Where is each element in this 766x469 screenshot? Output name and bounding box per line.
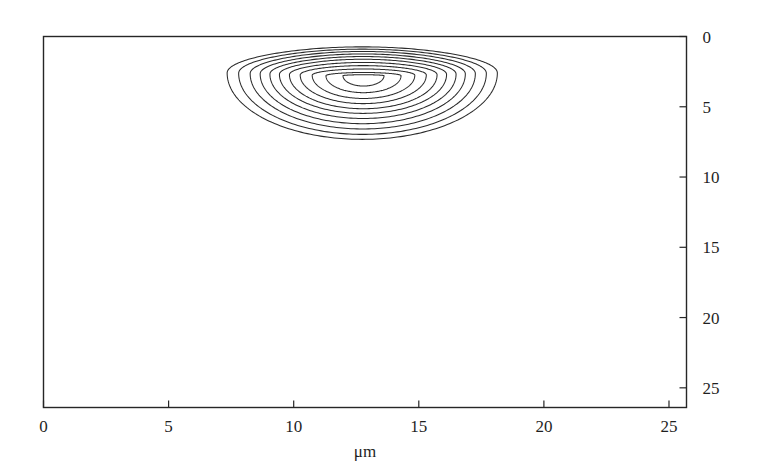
x-tick-label-5: 25 <box>660 418 677 435</box>
x-axis-title: μm <box>354 443 376 460</box>
x-tick-label-3: 15 <box>410 418 427 435</box>
y-tick-label-5: 25 <box>703 379 720 396</box>
x-tick-label-4: 20 <box>535 418 552 435</box>
x-tick-label-1: 5 <box>164 418 173 435</box>
contour-plot-figure: 05101520250510152025μm <box>0 0 766 469</box>
y-tick-label-2: 10 <box>703 169 720 186</box>
y-tick-label-1: 5 <box>703 98 712 115</box>
y-tick-label-0: 0 <box>703 28 712 45</box>
plot-background <box>0 0 766 469</box>
x-tick-label-0: 0 <box>39 418 48 435</box>
y-tick-label-4: 20 <box>703 309 720 326</box>
plot-canvas <box>0 0 766 469</box>
x-tick-label-2: 10 <box>285 418 302 435</box>
y-tick-label-3: 15 <box>703 239 720 256</box>
